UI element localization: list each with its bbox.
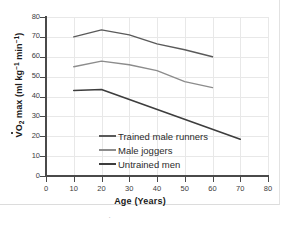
y-axis-tick xyxy=(40,116,46,117)
x-tick-label: 20 xyxy=(92,185,112,193)
y-title-max: max (ml kg xyxy=(14,70,24,121)
x-tick-label: 80 xyxy=(258,185,278,193)
y-title-o: O xyxy=(14,124,24,131)
y-axis-tick xyxy=(40,97,46,98)
y-axis-tick xyxy=(40,17,46,18)
y-axis-title: VO2 max (ml kg−1 min−1) xyxy=(14,0,24,170)
y-tick-label: 0 xyxy=(20,172,40,180)
x-axis-tick xyxy=(240,177,241,182)
x-axis-tick xyxy=(46,177,47,182)
x-tick-label: 30 xyxy=(119,185,139,193)
x-axis-title: Age (Years) xyxy=(0,196,280,206)
x-tick-label: 50 xyxy=(175,185,195,193)
legend-item-untrained-men: Untrained men xyxy=(99,157,208,171)
y-title-sub2: 2 xyxy=(18,120,25,124)
y-axis-tick xyxy=(40,37,46,38)
y-axis-tick xyxy=(40,57,46,58)
x-tick-label: 0 xyxy=(36,185,56,193)
series-line-male-joggers xyxy=(74,61,213,87)
gridline-vertical xyxy=(268,17,269,176)
x-axis-tick xyxy=(213,177,214,182)
x-axis-tick xyxy=(102,177,103,182)
legend-swatch-icon xyxy=(99,163,116,164)
legend-label: Male joggers xyxy=(118,145,172,156)
x-tick-label: 70 xyxy=(230,185,250,193)
series-line-trained-male-runners xyxy=(74,30,213,57)
x-tick-label: 60 xyxy=(203,185,223,193)
plot-area: Trained male runners Male joggers Untrai… xyxy=(46,17,268,176)
x-axis-tick xyxy=(157,177,158,182)
x-axis-tick xyxy=(268,177,269,182)
legend-label: Untrained men xyxy=(118,159,180,170)
legend-swatch-icon xyxy=(99,149,116,150)
legend-item-trained-male-runners: Trained male runners xyxy=(99,129,208,143)
y-title-sup2: −1 xyxy=(13,36,20,44)
x-tick-label: 10 xyxy=(64,185,84,193)
y-title-sup1: −1 xyxy=(13,62,20,70)
x-axis-tick xyxy=(185,177,186,182)
legend-label: Trained male runners xyxy=(118,131,208,142)
x-axis-tick xyxy=(129,177,130,182)
y-title-mid: min xyxy=(14,43,24,62)
v-dot-icon: V xyxy=(14,131,24,137)
x-axis-tick xyxy=(74,177,75,182)
y-axis-tick xyxy=(40,77,46,78)
legend-swatch-icon xyxy=(99,135,116,136)
y-axis-tick xyxy=(40,136,46,137)
legend-item-male-joggers: Male joggers xyxy=(99,143,208,157)
chart-card: Trained male runners Male joggers Untrai… xyxy=(0,0,280,205)
chart-legend: Trained male runners Male joggers Untrai… xyxy=(99,129,208,171)
x-tick-label: 40 xyxy=(147,185,167,193)
below-card-mark: ˙ xyxy=(107,218,113,224)
y-axis-tick xyxy=(40,156,46,157)
